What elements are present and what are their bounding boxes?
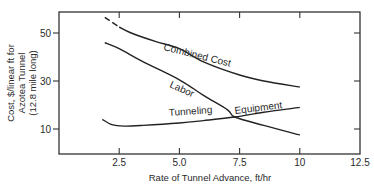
x-tick-label: 5.0 (172, 157, 186, 168)
cost-vs-advance-chart: 2.55.07.51012.5103050 Combined Cost Labo… (0, 0, 374, 186)
y-axis-title: Cost, $/linear ft for Azotea Tunnel (12.… (5, 44, 38, 122)
y-axis-title-line-3: (12.8 mile long) (27, 50, 38, 115)
y-tick-label: 50 (40, 28, 52, 39)
x-tick-label: 2.5 (112, 157, 126, 168)
axis-ticks (53, 12, 360, 154)
x-tick-label: 12.5 (350, 157, 370, 168)
x-axis-title: Rate of Tunnel Advance, ft/hr (149, 172, 272, 183)
tick-labels: 2.55.07.51012.5103050 (40, 28, 370, 169)
plot-frame (59, 12, 360, 154)
y-axis-title-line-1: Cost, $/linear ft for (5, 44, 16, 122)
y-tick-label: 10 (40, 124, 52, 135)
label-combined-cost: Combined Cost (163, 41, 233, 68)
x-tick-label: 10 (294, 157, 306, 168)
curve-combined-cost-dashed (105, 17, 119, 27)
x-tick-label: 7.5 (233, 157, 247, 168)
label-tunneling: Tunneling (168, 104, 212, 118)
y-tick-label: 30 (40, 76, 52, 87)
curves (102, 17, 299, 135)
y-axis-title-line-2: Azotea Tunnel (16, 53, 27, 114)
